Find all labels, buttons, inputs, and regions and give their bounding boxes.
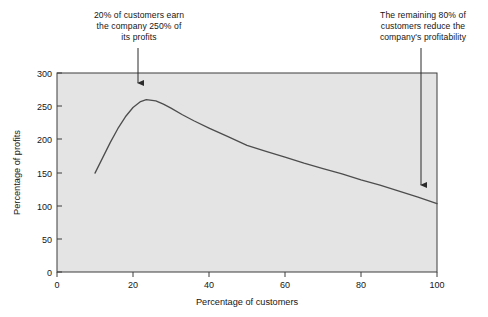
x-axis-title: Percentage of customers [196,297,299,307]
plot-background [57,73,437,272]
profit-curve-figure: 20% of customers earn the company 250% o… [0,0,488,317]
y-tick-label-250: 250 [37,102,52,112]
x-tick-label-20: 20 [128,280,138,290]
chart-plot-area: 0 50 100 150 200 250 300 0 20 40 60 80 1… [0,0,488,317]
y-tick-label-200: 200 [37,135,52,145]
y-tick-label-100: 100 [37,202,52,212]
y-tick-label-0: 0 [47,268,52,278]
y-tick-label-150: 150 [37,169,52,179]
y-tick-label-300: 300 [37,69,52,79]
x-tick-label-60: 60 [280,280,290,290]
x-tick-label-0: 0 [54,280,59,290]
x-tick-label-100: 100 [429,280,444,290]
x-axis-ticks [57,272,437,277]
y-tick-label-50: 50 [42,235,52,245]
x-tick-label-80: 80 [356,280,366,290]
y-axis-title: Percentage of profits [12,130,22,215]
x-tick-label-40: 40 [204,280,214,290]
